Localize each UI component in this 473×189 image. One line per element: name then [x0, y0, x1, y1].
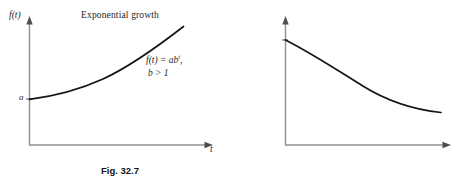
growth-equation-condition: b > 1	[148, 68, 169, 78]
figure-panel-growth: Exponential growth f(t) t a f(t) = abt, …	[0, 0, 237, 189]
growth-y-axis-label: f(t)	[9, 10, 21, 20]
growth-equation-expr: f(t) = ab	[146, 55, 178, 65]
growth-chart-title: Exponential growth	[55, 10, 185, 20]
figure-panel-decay: Exponential decay f(t) t a f(t) = abt, b…	[237, 0, 473, 189]
growth-equation-line-1: f(t) = abt,	[146, 54, 182, 67]
growth-intercept-label: a	[19, 92, 24, 102]
growth-figure-caption: Fig. 32.7	[60, 165, 180, 176]
growth-x-axis-label: t	[210, 144, 213, 154]
growth-equation-comma: ,	[180, 55, 182, 65]
growth-equation-line-2: b > 1	[146, 67, 182, 80]
growth-equation-annotation: f(t) = abt, b > 1	[146, 54, 182, 80]
